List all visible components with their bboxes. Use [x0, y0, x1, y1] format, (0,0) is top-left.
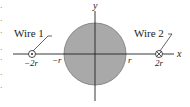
svg-text:·: · [0, 4, 2, 12]
pos-r-label: r [128, 55, 132, 65]
svg-text:·: · [0, 71, 2, 79]
neg-r-label: −r [52, 55, 62, 65]
svg-text:·: · [0, 29, 2, 37]
margin-fragments: · · · · · · · [0, 4, 2, 92]
diagram-canvas: · · · · · · · y x −r r Wire 1 −2r Wire 2… [0, 0, 190, 107]
svg-text:·: · [0, 84, 2, 92]
y-axis-label: y [92, 0, 98, 11]
svg-text:·: · [0, 17, 2, 25]
wire-1-label: Wire 1 [14, 27, 44, 39]
wire-1: Wire 1 −2r [14, 27, 52, 68]
svg-text:·: · [0, 56, 2, 64]
wire-1-position-label: −2r [24, 58, 39, 68]
svg-text:·: · [0, 46, 2, 54]
wire-2-position-label: 2r [155, 58, 164, 68]
wire-2-label: Wire 2 [134, 27, 164, 39]
wire-2: Wire 2 2r [134, 27, 172, 68]
x-axis-label: x [176, 48, 182, 59]
